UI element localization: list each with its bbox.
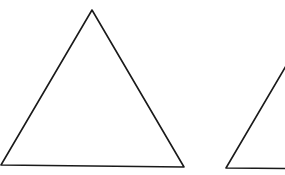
triangle-partial [226, 66, 285, 169]
diagram-canvas [0, 0, 285, 175]
triangle-large [1, 10, 184, 167]
